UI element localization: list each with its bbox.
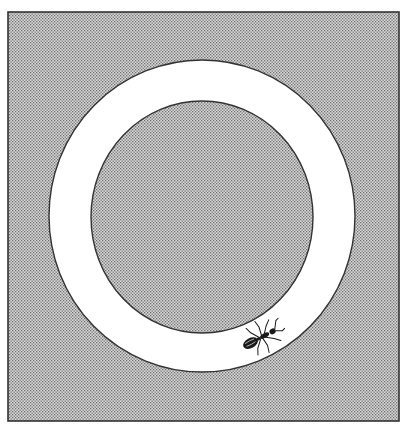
ant-on-ring-diagram <box>0 0 404 426</box>
inner-shaded-disc <box>91 101 313 333</box>
